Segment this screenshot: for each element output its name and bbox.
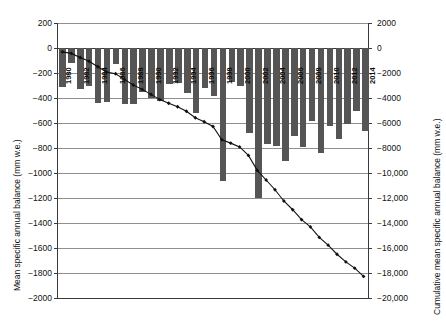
y-axis-left-label: −1200 (6, 194, 52, 203)
y-axis-right-label: −16,000 (377, 244, 429, 253)
y-axis-right-label: −2000 (377, 69, 429, 78)
y-axis-left-label: −200 (6, 69, 52, 78)
y-axis-right-label: −12,000 (377, 194, 429, 203)
y-axis-left-label: −1600 (6, 244, 52, 253)
y-tick-right (368, 273, 372, 274)
line-marker (167, 101, 171, 105)
cumulative-line-series (58, 23, 368, 298)
line-marker (69, 51, 73, 55)
y-axis-left-label: −1400 (6, 219, 52, 228)
y-axis-left-label: −2000 (6, 294, 52, 303)
y-tick-right (368, 148, 372, 149)
y-axis-left-label: −400 (6, 94, 52, 103)
x-axis-label: 2014 (369, 67, 377, 84)
y-tick-right (368, 223, 372, 224)
y-axis-right-label: −18,000 (377, 269, 429, 278)
y-axis-right-label: −20,000 (377, 294, 429, 303)
y-tick-right (368, 298, 372, 299)
y-axis-left-label: −800 (6, 144, 52, 153)
line-marker (61, 50, 65, 54)
y-axis-right-label: 0 (377, 44, 429, 53)
y-axis-left-label: 0 (6, 44, 52, 53)
y-axis-right-label: −4000 (377, 94, 429, 103)
y-axis-right-label: −8000 (377, 144, 429, 153)
y-axis-left-label: −1800 (6, 269, 52, 278)
y-tick-right (368, 248, 372, 249)
cumulative-markers (61, 50, 366, 278)
y-tick-left (54, 298, 58, 299)
y-axis-right-label: −10,000 (377, 169, 429, 178)
chart-container: Mean specific annual balance (mm w.e.) C… (0, 0, 446, 324)
y-axis-left-label: −600 (6, 119, 52, 128)
line-marker (78, 56, 82, 60)
y-axis-right-label: −6000 (377, 119, 429, 128)
y-tick-right (368, 173, 372, 174)
y-axis-left-label: 200 (6, 19, 52, 28)
line-marker (176, 105, 180, 109)
y-tick-right (368, 23, 372, 24)
plot-area: 2000−200−400−600−800−1000−1200−1400−1600… (57, 23, 369, 298)
y-tick-right (368, 198, 372, 199)
cumulative-line (62, 52, 363, 277)
gridline (58, 298, 368, 299)
line-marker (229, 141, 233, 145)
y-axis-title-right: Cumulative mean specific annual balance … (433, 118, 442, 315)
y-axis-right-label: 2000 (377, 19, 429, 28)
y-axis-left-label: −1000 (6, 169, 52, 178)
y-axis-right-label: −14,000 (377, 219, 429, 228)
